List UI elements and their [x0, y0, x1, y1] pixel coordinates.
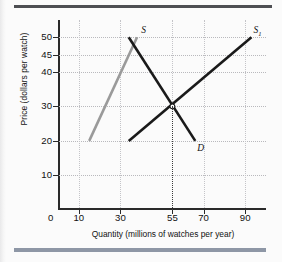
curve-label-text: D — [197, 143, 204, 153]
curve-label-subscript: 1 — [258, 30, 261, 37]
plot-area: 102030404550 1030557090 0 SDS1 — [58, 20, 266, 210]
supply-demand-figure: Price (dollars per watch) Quantity (mill… — [0, 12, 282, 246]
x-tick-label: 70 — [198, 213, 209, 223]
origin-label: 0 — [48, 213, 53, 223]
curve-D — [129, 37, 196, 141]
curve-label-S: S — [141, 25, 146, 35]
equilibrium-dropline — [172, 106, 173, 210]
x-axis-title: Quantity (millions of watches per year) — [50, 229, 276, 239]
y-tick-label: 45 — [41, 50, 52, 60]
curve-S1 — [129, 37, 252, 141]
curve-label-D: D — [197, 143, 204, 153]
top-rule — [14, 5, 272, 8]
curve-label-text: S — [141, 25, 146, 35]
curves-layer — [58, 20, 266, 210]
y-tick-label: 10 — [41, 171, 52, 181]
curve-S — [89, 37, 137, 141]
x-tick-label: 90 — [240, 213, 251, 223]
y-tick-label: 50 — [41, 32, 52, 42]
y-tick-label: 40 — [41, 67, 52, 77]
curve-label-S1: S1 — [254, 25, 262, 37]
x-tick-label: 55 — [167, 213, 178, 223]
x-tick-label: 30 — [115, 213, 126, 223]
x-tick-label: 10 — [73, 213, 84, 223]
y-tick-label: 20 — [41, 136, 52, 146]
bottom-rule — [14, 248, 266, 252]
y-axis-title: Price (dollars per watch) — [19, 9, 29, 149]
y-tick-label: 30 — [41, 102, 52, 112]
